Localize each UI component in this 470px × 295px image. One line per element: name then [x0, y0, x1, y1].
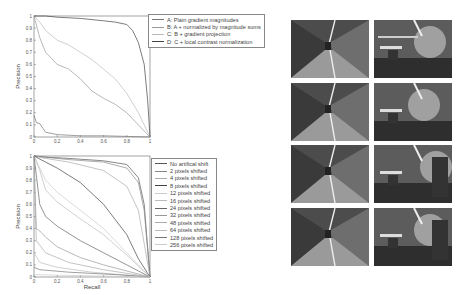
- y-tick-label: 0.3: [26, 98, 33, 103]
- bottom-pr-chart: 00.20.40.60.8100.10.20.30.40.50.60.70.80…: [0, 145, 160, 295]
- x-tick-label: 0.6: [100, 139, 107, 144]
- legend-item: 128 pixels shifted: [155, 234, 213, 241]
- y-tick-label: 0.7: [26, 50, 33, 55]
- legend-swatch-icon: [155, 237, 167, 238]
- legend-item: No artifical shift: [155, 160, 213, 167]
- legend-item: 24 pixels shifted: [155, 204, 213, 211]
- y-tick-label: 0.2: [26, 110, 33, 115]
- legend-label: 4 pixels shifted: [170, 175, 207, 181]
- legend-item: 4 pixels shifted: [155, 175, 213, 182]
- bottom-chart-legend: No artifical shift2 pixels shifted4 pixe…: [151, 158, 217, 251]
- legend-swatch-icon: [155, 200, 167, 201]
- legend-item: B: A + normalized by magnitude sums: [152, 23, 261, 30]
- y-tick-label: 0.4: [26, 86, 33, 91]
- legend-label: 12 pixels shifted: [170, 190, 210, 196]
- image-tile-lab-shelves: [374, 20, 452, 78]
- legend-swatch-icon: [155, 163, 167, 164]
- legend-item: 12 pixels shifted: [155, 190, 213, 197]
- image-tile-corridor: [291, 83, 369, 141]
- image-tile-lab-panel: [374, 208, 452, 266]
- x-tick-label: 0.6: [100, 279, 107, 284]
- image-tile-lab-lamp: [374, 83, 452, 141]
- legend-item: A: Plain gradient magnitudes: [152, 16, 261, 23]
- bottom-pr-plot: 00.20.40.60.8100.10.20.30.40.50.60.70.80…: [0, 145, 160, 295]
- legend-swatch-icon: [152, 34, 164, 35]
- y-tick-label: 0.5: [26, 74, 33, 79]
- top-pr-plot: 00.20.40.60.8100.10.20.30.40.50.60.70.80…: [0, 0, 160, 145]
- image-grid: [291, 20, 453, 268]
- x-tick-label: 1: [149, 279, 152, 284]
- legend-label: C: B + gradient projection: [167, 31, 230, 37]
- legend-swatch-icon: [152, 19, 164, 20]
- image-tile-corridor: [291, 20, 369, 78]
- y-tick-label: 0.8: [26, 178, 33, 183]
- image-tile-corridor: [291, 145, 369, 203]
- legend-item: 32 pixels shifted: [155, 212, 213, 219]
- legend-label: 8 pixels shifted: [170, 183, 207, 189]
- legend-label: 64 pixels shifted: [170, 227, 210, 233]
- legend-item: 48 pixels shifted: [155, 219, 213, 226]
- legend-swatch-icon: [155, 193, 167, 194]
- legend-label: 48 pixels shifted: [170, 220, 210, 226]
- y-tick-label: 0.7: [26, 190, 33, 195]
- legend-swatch-icon: [155, 185, 167, 186]
- y-tick-label: 0.6: [26, 62, 33, 67]
- legend-label: 2 pixels shifted: [170, 168, 207, 174]
- legend-swatch-icon: [155, 178, 167, 179]
- legend-label: 128 pixels shifted: [170, 235, 213, 241]
- legend-label: D: C + local contrast normalization: [167, 39, 252, 45]
- y-tick-label: 1: [29, 14, 32, 19]
- legend-label: B: A + normalized by magnitude sums: [167, 24, 261, 30]
- y-tick-label: 0.8: [26, 38, 33, 43]
- y-tick-label: 0.3: [26, 238, 33, 243]
- x-tick-label: 0: [33, 139, 36, 144]
- legend-swatch-icon: [155, 215, 167, 216]
- y-tick-label: 0.1: [26, 262, 33, 267]
- legend-label: 24 pixels shifted: [170, 205, 210, 211]
- x-tick-label: 0.8: [124, 279, 131, 284]
- legend-item: C: B + gradient projection: [152, 31, 261, 38]
- x-tick-label: 0.8: [124, 139, 131, 144]
- legend-label: 16 pixels shifted: [170, 198, 210, 204]
- x-tick-label: 0: [33, 279, 36, 284]
- x-tick-label: 1: [149, 139, 152, 144]
- legend-label: 256 pixels shifted: [170, 242, 213, 248]
- x-tick-label: 0.2: [54, 139, 61, 144]
- y-axis-label: Precision: [15, 204, 21, 229]
- legend-label: No artifical shift: [170, 161, 208, 167]
- legend-swatch-icon: [152, 27, 164, 28]
- x-axis-label: Recall: [84, 284, 101, 290]
- legend-swatch-icon: [152, 41, 164, 42]
- series-line: [34, 156, 150, 277]
- legend-label: 32 pixels shifted: [170, 212, 210, 218]
- legend-item: 64 pixels shifted: [155, 227, 213, 234]
- legend-swatch-icon: [155, 244, 167, 245]
- legend-item: 256 pixels shifted: [155, 241, 213, 248]
- image-tile-corridor: [291, 208, 369, 266]
- top-pr-chart: 00.20.40.60.8100.10.20.30.40.50.60.70.80…: [0, 0, 160, 145]
- y-tick-label: 0.9: [26, 166, 33, 171]
- x-tick-label: 0.2: [54, 279, 61, 284]
- legend-swatch-icon: [155, 208, 167, 209]
- legend-label: A: Plain gradient magnitudes: [167, 17, 239, 23]
- legend-swatch-icon: [155, 230, 167, 231]
- legend-swatch-icon: [155, 171, 167, 172]
- image-tile-lab-panel: [374, 145, 452, 203]
- legend-swatch-icon: [155, 222, 167, 223]
- y-tick-label: 0.1: [26, 122, 33, 127]
- y-tick-label: 0.6: [26, 202, 33, 207]
- y-tick-label: 0.5: [26, 214, 33, 219]
- y-tick-label: 0.9: [26, 26, 33, 31]
- series-line: [34, 16, 150, 137]
- y-tick-label: 1: [29, 154, 32, 159]
- legend-item: 8 pixels shifted: [155, 182, 213, 189]
- legend-item: 2 pixels shifted: [155, 167, 213, 174]
- y-tick-label: 0.2: [26, 250, 33, 255]
- y-tick-label: 0.4: [26, 226, 33, 231]
- legend-item: D: C + local contrast normalization: [152, 38, 261, 45]
- legend-item: 16 pixels shifted: [155, 197, 213, 204]
- top-chart-legend: A: Plain gradient magnitudesB: A + norma…: [148, 14, 265, 48]
- y-axis-label: Precision: [15, 64, 21, 89]
